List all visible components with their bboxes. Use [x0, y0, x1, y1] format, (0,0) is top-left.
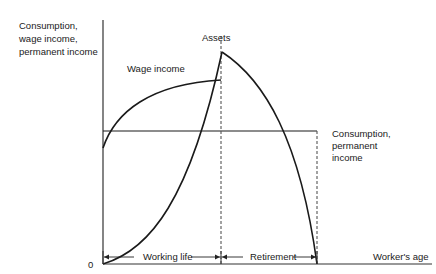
arrowhead-icon [215, 255, 220, 260]
arrowhead-icon [222, 255, 227, 260]
consumption-label: Consumption, permanent income [332, 128, 393, 163]
assets-label: Assets [202, 32, 231, 43]
wage-income-curve [103, 80, 221, 148]
working-life-label: Working life [143, 251, 192, 262]
wage-income-label: Wage income [127, 63, 185, 74]
y-axis-label: Consumption, wage income, permanent inco… [18, 20, 98, 57]
assets-decumulation-curve [222, 52, 317, 264]
origin-label: 0 [88, 259, 93, 270]
life-cycle-diagram: Consumption, wage income, permanent inco… [0, 0, 436, 274]
x-axis-label: Worker's age [373, 251, 429, 262]
retirement-label: Retirement [250, 251, 297, 262]
assets-accumulation-curve [103, 52, 222, 264]
arrowhead-icon [104, 255, 109, 260]
